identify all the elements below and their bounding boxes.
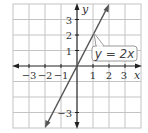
x-axis-label: x <box>134 69 141 82</box>
x-tick-label: 2 <box>106 70 112 81</box>
x-tick-label: −1 <box>54 70 69 81</box>
line-down-arrow-icon <box>45 120 51 128</box>
line-up-arrow-icon <box>104 4 110 13</box>
y-tick-label: −3 <box>57 108 72 119</box>
y-axis-label: y <box>81 3 89 16</box>
equation-label: y = 2x <box>94 47 135 61</box>
x-tick-label: −3 <box>22 70 37 81</box>
y-tick-label: 1 <box>66 46 72 57</box>
coordinate-plane: −3 −2 −1 1 2 3 x 3 2 1 −3 y y = 2x <box>0 0 148 133</box>
y-tick-label: 2 <box>66 30 72 41</box>
x-tick-label: 1 <box>90 70 96 81</box>
x-tick-label: 3 <box>121 70 127 81</box>
x-tick-label: −2 <box>38 70 53 81</box>
y-tick-label: 3 <box>66 15 72 26</box>
equation-callout: y = 2x <box>92 33 137 61</box>
